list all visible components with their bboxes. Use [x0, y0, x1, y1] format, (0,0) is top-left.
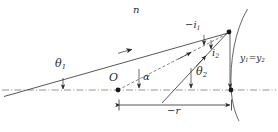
label-object-point-O: O — [109, 72, 118, 83]
label-i2-sub: 2 — [215, 52, 219, 59]
label-i2: i2 — [212, 48, 219, 58]
label-medium-index: n — [133, 5, 139, 15]
label-radius-minus-r: −r — [167, 106, 180, 116]
label-i1: −i1 — [185, 20, 201, 30]
label-theta1-base: θ — [55, 57, 62, 70]
spherical-surface-arc — [231, 9, 248, 121]
label-y2-sub: 2 — [261, 57, 265, 63]
point-O-dot — [116, 88, 121, 93]
label-theta1: θ1 — [55, 58, 66, 69]
label-alpha: α — [143, 72, 150, 82]
incident-ray — [4, 33, 228, 96]
incident-ray-arrow-mid — [118, 49, 132, 53]
diagram-vector-layer — [0, 0, 278, 132]
label-y1-sub: 1 — [245, 57, 249, 63]
label-theta2: θ2 — [196, 66, 207, 77]
label-y2-base: =y — [249, 53, 262, 63]
label-i1-sub: 1 — [197, 24, 201, 31]
label-i1-base: −i — [185, 19, 197, 30]
label-height-y1-y2: y1=y2 — [240, 54, 265, 63]
figure-canvas: n θ1 θ2 α −i1 i2 O y1=y2 −r — [0, 0, 278, 132]
label-theta1-sub: 1 — [62, 63, 66, 71]
point-P-dot — [227, 30, 232, 35]
point-vertex-dot — [229, 88, 234, 93]
label-theta2-base: θ — [196, 65, 203, 78]
label-theta2-sub: 2 — [203, 71, 207, 79]
dashed-chord-arrow — [178, 53, 191, 60]
